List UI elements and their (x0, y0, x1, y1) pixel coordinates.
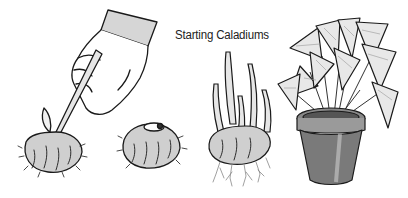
illustration-drawing (0, 0, 408, 198)
caladium-illustration: Starting Caladiums (0, 0, 408, 198)
potted-caladium (278, 18, 398, 185)
sprouting-tuber (209, 52, 271, 186)
whole-tuber (117, 123, 187, 168)
